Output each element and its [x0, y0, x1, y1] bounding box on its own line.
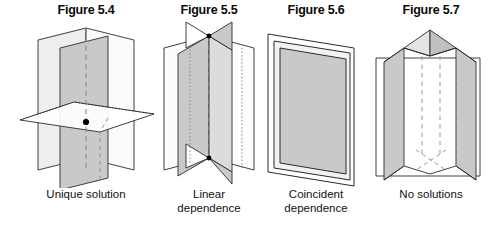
figure-caption: Coincident dependence [258, 188, 374, 215]
figure-caption: No solutions [368, 188, 494, 202]
figure-art-linear-dependence [150, 18, 268, 188]
plane-inner-shaded [280, 48, 346, 174]
figure-caption: Unique solution [8, 188, 164, 202]
node-top [207, 34, 212, 39]
intersection-point [83, 119, 89, 125]
figure-title: Figure 5.5 [150, 3, 268, 17]
figure-art-coincident-dependence [258, 18, 374, 188]
figure-art-unique-solution [8, 18, 164, 188]
figure-title: Figure 5.4 [8, 3, 164, 17]
figure-board: Figure 5.4 Unique solution [0, 0, 498, 229]
figure-title: Figure 5.7 [368, 3, 494, 17]
figure-title: Figure 5.6 [258, 3, 374, 17]
plane-right-shaded [456, 48, 476, 180]
figure-panel-5-6: Figure 5.6 Coincident dependence [258, 0, 374, 229]
plane-middle-right [209, 36, 232, 172]
figure-art-no-solutions [368, 18, 494, 188]
node-bottom [207, 156, 212, 161]
figure-panel-5-4: Figure 5.4 Unique solution [8, 0, 164, 229]
plane-left-shaded [384, 48, 404, 180]
figure-panel-5-7: Figure 5.7 [368, 0, 494, 229]
figure-caption: Linear dependence [150, 188, 268, 215]
figure-panel-5-5: Figure 5.5 [150, 0, 268, 229]
